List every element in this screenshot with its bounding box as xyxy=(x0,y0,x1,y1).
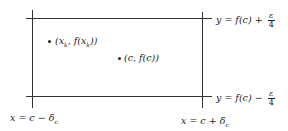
upper-bound-label: y = f(c) + ε4 xyxy=(216,12,275,29)
point-xk-label: (xk, f(xk)) xyxy=(55,36,97,48)
diagram-canvas: y = f(c) + ε4 y = f(c) − ε4 x = c − δc x… xyxy=(0,0,288,131)
bottom-horizontal-line xyxy=(26,96,212,97)
lower-bound-text: y = f(c) − xyxy=(216,92,266,103)
right-bound-label: x = c + δc xyxy=(181,116,229,128)
left-vertical-line xyxy=(32,10,33,108)
point-c-marker xyxy=(118,57,121,60)
top-horizontal-line xyxy=(26,18,212,19)
left-bound-label: x = c − δc xyxy=(10,113,58,125)
upper-bound-text: y = f(c) + xyxy=(216,14,266,25)
point-c-label: (c, f(c)) xyxy=(124,53,159,63)
right-vertical-line xyxy=(202,12,203,108)
point-xk-marker xyxy=(48,40,51,43)
epsilon-over-four: ε4 xyxy=(268,12,275,29)
epsilon-over-four: ε4 xyxy=(268,90,275,107)
lower-bound-label: y = f(c) − ε4 xyxy=(216,90,275,107)
